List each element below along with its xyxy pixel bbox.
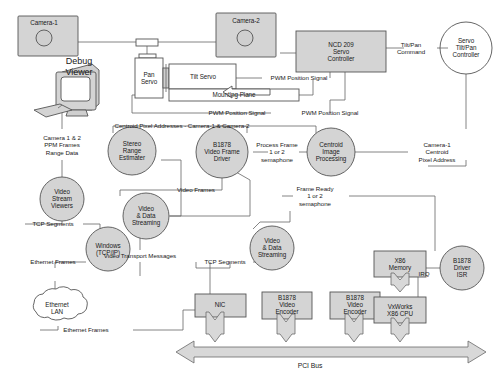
b1878-video-encoder-2-box: [330, 292, 380, 319]
connector-vfd-videoframes: [120, 175, 222, 196]
tilt-servo-box: [169, 64, 236, 89]
camera-2-lens: [237, 30, 253, 46]
connector-frameready-isr: [349, 196, 435, 251]
ethernet-lan-layer: [33, 287, 87, 320]
ncd-controller-layer: [296, 31, 386, 72]
video-data-streaming-left-circle: [123, 193, 169, 239]
b1878-video-encoder-1-box: [262, 292, 312, 319]
vxworks-x86-cpu-box: [374, 297, 426, 323]
stereo-range-estimater-circle: [108, 127, 156, 175]
servo-assembly-layer: [135, 58, 299, 101]
camera-1-lens: [36, 30, 52, 46]
diagram-canvas: [0, 0, 501, 387]
pci-cards-layer: [195, 251, 426, 323]
crt-screen: [61, 77, 90, 101]
system-architecture-diagram: Camera-1 Camera-2 Debug Viewer Pan Servo…: [0, 0, 501, 387]
connector-ethframes2-nic: [133, 310, 195, 330]
pci-bus-layer: [176, 341, 486, 363]
pci-bus-arrow: [176, 341, 486, 363]
mast-plate-lower: [139, 54, 156, 58]
debug-viewer-layer: [34, 64, 99, 117]
video-data-streaming-right-circle: [250, 226, 294, 270]
ncd-209-box: [296, 31, 386, 72]
connector-mountingplane-ncd: [299, 80, 313, 95]
mast-plate: [136, 39, 158, 46]
b1878-driver-isr-circle: [440, 246, 484, 290]
connector-windows-ethframes: [55, 262, 86, 268]
centroid-image-processing-circle: [307, 128, 355, 176]
b1878-video-frame-driver-circle: [196, 126, 248, 178]
connector-servoctrl-centroid: [428, 160, 466, 166]
pan-servo-box: [135, 58, 163, 98]
connector-vfd-to-vds: [168, 172, 250, 216]
x86-memory-box: [374, 251, 426, 277]
connector-pwm3-ncd: [330, 72, 345, 113]
ethernet-lan-cloud: [33, 287, 87, 320]
connector-tcp-nic-path: [196, 262, 230, 268]
windows-tcpip-circle: [86, 227, 130, 271]
video-stream-viewers-circle: [40, 177, 84, 221]
connector-lan-ethframes2: [40, 326, 58, 330]
camera-rig-layer: [18, 13, 276, 58]
